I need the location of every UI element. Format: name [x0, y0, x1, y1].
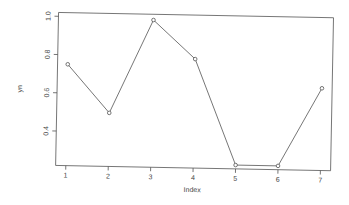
plot-frame — [56, 12, 334, 170]
x-tick-label: 6 — [276, 176, 280, 183]
data-point — [234, 163, 238, 167]
data-markers — [64, 17, 325, 169]
data-point — [152, 18, 156, 22]
x-tick-label: 3 — [148, 173, 152, 180]
data-point — [320, 86, 324, 90]
x-tick-label: 7 — [318, 176, 322, 183]
x-tick-label: 2 — [106, 172, 110, 179]
x-tick-label: 5 — [233, 175, 237, 182]
y-tick-label: 0.6 — [43, 88, 50, 98]
x-tick-label: 1 — [64, 172, 68, 179]
x-tick-label: 4 — [191, 174, 195, 181]
y-axis: 0.40.60.81.0 — [42, 11, 58, 136]
data-point — [107, 111, 111, 115]
data-point — [66, 62, 70, 66]
data-line — [66, 18, 323, 166]
y-tick-label: 0.4 — [42, 126, 49, 136]
y-tick-label: 1.0 — [44, 11, 51, 21]
line-chart: 0.40.60.81.0 1234567 Index yn — [0, 0, 349, 205]
data-point — [193, 57, 197, 61]
data-point — [276, 164, 280, 168]
y-axis-label: yn — [16, 85, 24, 93]
x-axis-label: Index — [184, 186, 202, 193]
x-axis: 1234567 — [64, 166, 323, 184]
y-tick-label: 0.8 — [44, 49, 51, 59]
